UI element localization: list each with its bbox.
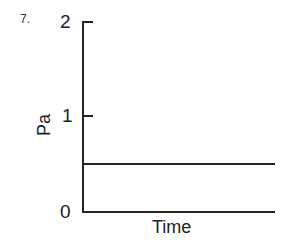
chart-plot [0, 0, 290, 247]
